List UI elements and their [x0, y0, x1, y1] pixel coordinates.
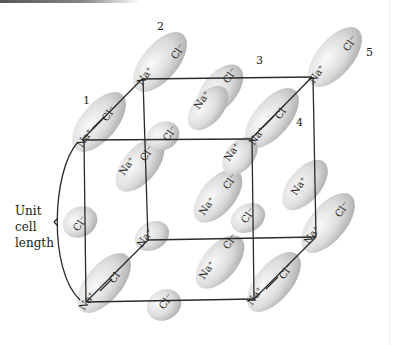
svg-text:length: length: [15, 236, 54, 250]
nacl-molecule-ellipses: [57, 18, 372, 327]
lattice-svg: Na⁺ Cl⁻ Na⁺ Cl⁻ Na⁺ Cl⁻ Na⁺ Cl⁻ Na⁺ Cl⁻ …: [0, 0, 398, 345]
number-2: 2: [157, 20, 164, 33]
unit-cell-length-label: Unit cell length: [15, 204, 54, 250]
number-3: 3: [256, 54, 263, 67]
right-page-edge: [389, 0, 390, 345]
number-1: 1: [83, 94, 90, 107]
nacl-unit-cell-diagram: Na⁺ Cl⁻ Na⁺ Cl⁻ Na⁺ Cl⁻ Na⁺ Cl⁻ Na⁺ Cl⁻ …: [0, 0, 398, 345]
svg-text:Unit: Unit: [15, 204, 42, 218]
number-5: 5: [366, 46, 373, 59]
svg-text:cell: cell: [15, 220, 37, 234]
number-4: 4: [296, 116, 303, 129]
top-border: [0, 0, 140, 3]
